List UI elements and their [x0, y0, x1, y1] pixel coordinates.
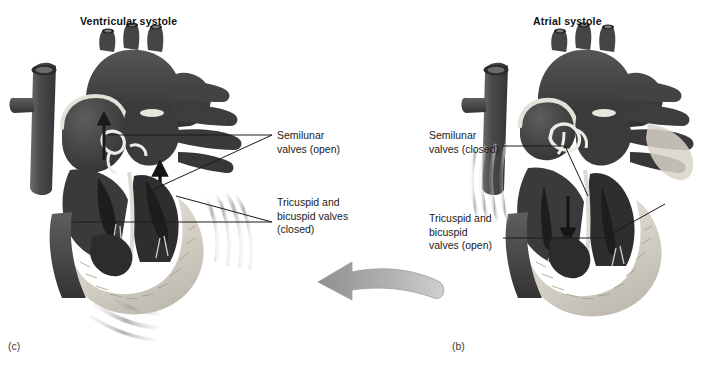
heart-atrial-systole: [462, 22, 694, 316]
heart-ventricular-systole: [10, 22, 252, 340]
ejection-flow-arrows-left: [99, 114, 166, 218]
leader-lines: [73, 135, 665, 238]
label-tricuspid-bicuspid-valves-closed: Tricuspid and bicuspid valves (closed): [277, 196, 348, 237]
aortic-arch-left: [86, 22, 211, 132]
left-heart-illustration: [0, 0, 721, 368]
pulmonary-branches-right: [620, 83, 693, 181]
cycle-arrow: [318, 262, 444, 300]
panel-title-ventricular-systole: Ventricular systole: [80, 15, 177, 27]
label-semilunar-valves-open: Semilunar valves (open): [277, 129, 340, 156]
left-ventricle-cavity-left-panel: [90, 234, 132, 276]
av-valves-open-right: [541, 186, 624, 266]
ventricles-right-panel: [517, 167, 634, 268]
av-valves-closed-left: [97, 178, 168, 258]
label-tricuspid-bicuspid-valves-open: Tricuspid and bicuspid valves (open): [429, 212, 492, 253]
panel-caption-c: (c): [8, 340, 20, 352]
semilunar-valve-closed-right: [550, 124, 587, 154]
leader-semilunar-open-diagonal: [152, 135, 272, 190]
semilunar-valve-open-left: [102, 131, 146, 173]
panel-title-atrial-systole: Atrial systole: [533, 15, 602, 27]
panel-caption-b: (b): [452, 340, 465, 352]
myocardium-left-panel: [50, 198, 204, 314]
myocardium-right-panel: [506, 200, 662, 316]
ventricles-left-panel: [63, 169, 179, 262]
left-atrium-right-panel: [575, 102, 631, 165]
right-atrium-left-panel: [62, 96, 128, 173]
contraction-motion-lines-left: [206, 194, 251, 270]
leader-tricuspid-closed-diagonal: [176, 196, 272, 222]
heart-cycle-figure: Ventricular systole Atrial systole Semil…: [0, 0, 721, 368]
left-ventricle-cavity-right-panel: [548, 236, 590, 278]
pulmonary-branches-left: [168, 83, 241, 174]
right-atrium-right-panel: [520, 100, 576, 160]
aortic-arch-right: [538, 22, 663, 132]
apex-motion-lines-left: [90, 292, 160, 340]
great-vessels-left: [10, 63, 57, 195]
label-semilunar-valves-closed: Semilunar valves (closed): [429, 129, 499, 156]
leader-tricuspid-open-diagonal: [604, 204, 665, 238]
left-atrium-left-panel: [123, 102, 179, 165]
leader-semilunar-closed-diagonal: [565, 146, 588, 196]
